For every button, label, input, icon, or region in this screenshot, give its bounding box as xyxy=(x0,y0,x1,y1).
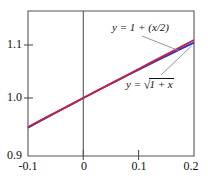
annotation-sqrt-label: y = √1 + x xyxy=(126,78,174,91)
x-tick-label-0.2: 0.2 xyxy=(176,160,206,172)
leader-linear xyxy=(142,36,179,51)
annotation-linear-label: y = 1 + (x/2) xyxy=(112,22,169,33)
sqrt-expression: √1 + x xyxy=(144,78,174,91)
y-tick-label-1.0: 1.0 xyxy=(0,91,22,103)
x-tick-label-0.1: 0.1 xyxy=(121,160,157,172)
y-tick-label-1.1: 1.1 xyxy=(0,38,22,50)
x-tick-label-0: 0 xyxy=(66,160,102,172)
figure-container: 1.1 1.0 0.9 -0.1 0 0.1 0.2 y = 1 + (x/2)… xyxy=(0,0,208,178)
x-tick-label--0.1: -0.1 xyxy=(10,160,46,172)
annotation-sqrt-arg: 1 + x xyxy=(149,78,173,90)
plot-canvas xyxy=(0,0,208,178)
x-tick-marks xyxy=(83,150,138,160)
annotation-sqrt-prefix: y = xyxy=(126,78,144,90)
